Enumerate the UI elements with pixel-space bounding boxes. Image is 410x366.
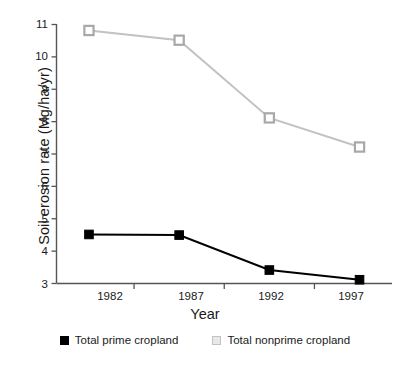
marker-1997-prime: [355, 275, 364, 284]
legend-label-prime: Total prime cropland: [75, 334, 179, 346]
black-square-icon: [60, 336, 69, 345]
marker-1992-nonprime: [265, 113, 274, 122]
marker-1987-prime: [175, 231, 184, 240]
marker-1982-nonprime: [84, 26, 93, 35]
soil-erosion-line-chart: Soil erosion rate (Mg/ha/yr) 11 10 9 8 7…: [0, 0, 410, 366]
marker-1987-nonprime: [175, 36, 184, 45]
series-total-prime-cropland: [85, 230, 364, 284]
line-total-nonprime-cropland: [89, 30, 360, 147]
y-axis-ticks: [52, 25, 57, 284]
marker-1982-prime: [85, 230, 94, 239]
grey-square-icon: [212, 336, 221, 345]
series-total-nonprime-cropland: [84, 26, 364, 152]
legend-label-nonprime: Total nonprime cropland: [227, 334, 350, 346]
legend-item-nonprime: Total nonprime cropland: [212, 334, 350, 346]
legend-item-prime: Total prime cropland: [60, 334, 179, 346]
marker-1992-prime: [265, 266, 274, 275]
line-total-prime-cropland: [89, 234, 360, 279]
marker-1997-nonprime: [355, 142, 364, 151]
x-axis-title: Year: [0, 306, 410, 322]
chart-legend: Total prime cropland Total nonprime crop…: [0, 334, 410, 346]
